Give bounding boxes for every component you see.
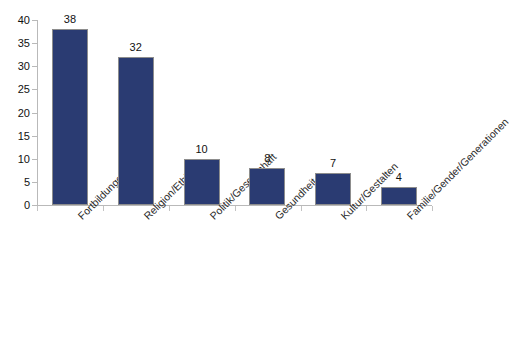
bar-value-label: 32 (106, 42, 166, 53)
bar-value-label: 38 (40, 14, 100, 25)
bar (381, 187, 417, 206)
bar-value-label: 7 (303, 158, 363, 169)
bar (184, 159, 220, 205)
bar (249, 168, 285, 205)
bar-value-label: 8 (237, 153, 297, 164)
x-axis-category-label: Familie/Gender/Generationen (405, 116, 510, 221)
bar-value-label: 4 (369, 172, 429, 183)
bar-value-label: 10 (172, 144, 232, 155)
bar (52, 29, 88, 205)
bar (315, 173, 351, 205)
bar (118, 57, 154, 205)
